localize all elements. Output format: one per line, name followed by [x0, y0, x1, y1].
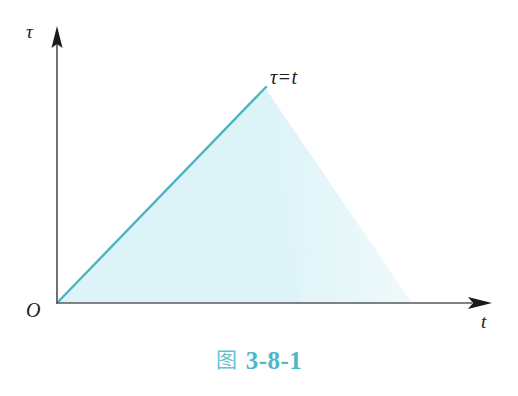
line-equation-operator: =: [278, 66, 292, 88]
figure-caption: 图 3-8-1: [0, 348, 518, 373]
vertical-axis-label: τ: [26, 22, 33, 41]
figure-container: τ t O τ=t 图 3-8-1: [0, 0, 518, 396]
line-equation-lhs: τ: [270, 66, 278, 88]
horizontal-axis-label: t: [481, 312, 486, 331]
caption-number: 3-8-1: [246, 348, 303, 373]
origin-label: O: [26, 300, 40, 320]
line-equation-rhs: t: [291, 66, 297, 88]
caption-figure-marker-icon: 图: [216, 350, 237, 371]
line-equation-label: τ=t: [270, 67, 298, 87]
figure-graphic: [0, 0, 518, 396]
